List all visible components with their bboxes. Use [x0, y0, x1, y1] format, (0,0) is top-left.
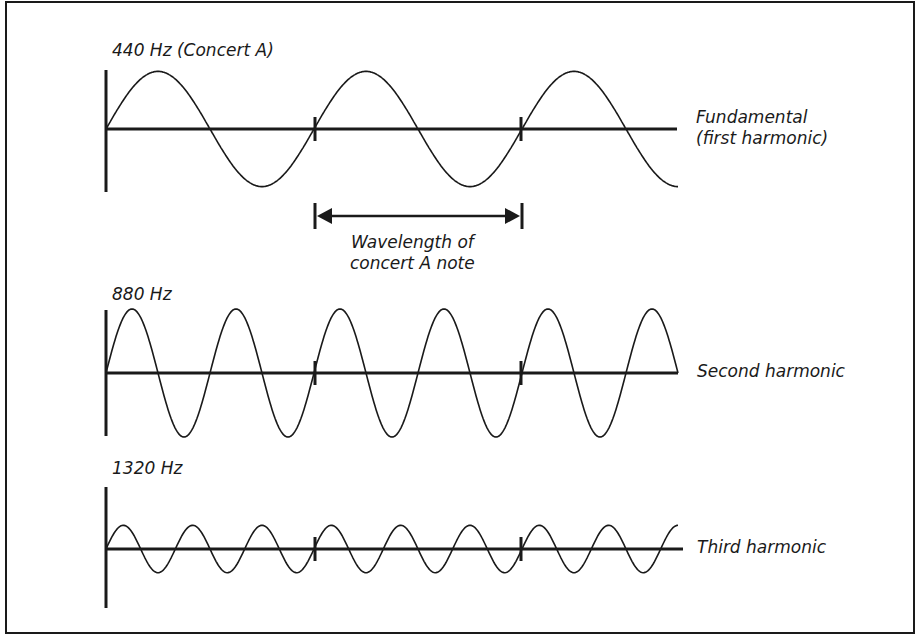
row-third-harmonic — [106, 487, 683, 608]
wavelength-line-2: concert A note — [350, 253, 475, 274]
freq-label-fundamental: 440 Hz (Concert A) — [112, 40, 274, 61]
name-line-2: (first harmonic) — [696, 128, 828, 149]
wavelength-line-1: Wavelength of — [350, 232, 475, 253]
name-line-1: Fundamental — [696, 107, 828, 128]
name-label-second: Second harmonic — [697, 361, 845, 382]
row-fundamental — [106, 70, 678, 192]
freq-label-third: 1320 Hz — [112, 458, 182, 479]
wavelength-arrow — [315, 203, 522, 229]
wavelength-label: Wavelength of concert A note — [350, 232, 475, 274]
row-second-harmonic — [106, 309, 678, 437]
arrow-head-right — [505, 208, 520, 224]
freq-label-second: 880 Hz — [112, 284, 172, 305]
arrow-head-left — [317, 208, 332, 224]
name-label-third: Third harmonic — [697, 537, 826, 558]
name-label-fundamental: Fundamental (first harmonic) — [696, 107, 828, 149]
